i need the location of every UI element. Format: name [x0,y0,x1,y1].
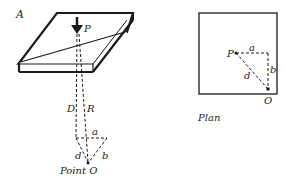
slab-label: A [15,8,24,21]
plan-point-p [234,51,237,54]
plan-label-b: b [270,64,276,75]
load-label: P [83,23,91,34]
diagram-canvas: A P D R a d b Point O P a b d O Plan [0,0,291,182]
label-b: b [102,150,108,161]
plan-label-a: a [249,42,255,53]
plan-view [199,13,277,94]
plan-label-o: O [264,95,272,106]
plan-title: Plan [197,112,220,123]
label-d-upper: D [66,103,75,114]
label-a: a [92,126,98,137]
plan-label-p: P [226,48,234,59]
label-d: d [75,150,81,161]
plan-point-o [266,87,270,91]
plan-label-d: d [244,70,250,81]
label-r: R [86,103,95,114]
point-o-label: Point O [59,165,97,176]
